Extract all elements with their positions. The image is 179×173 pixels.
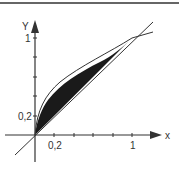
y-axis-label: Y	[22, 21, 29, 32]
shaded-region	[35, 38, 132, 135]
y-axis-arrow-icon	[31, 20, 39, 33]
x-axis-arrow-icon	[150, 131, 162, 139]
x-tick-label-1: 1	[130, 140, 136, 151]
curve-sqrt-x	[35, 32, 153, 135]
y-tick-label-1: 1	[25, 33, 31, 44]
x-tick-label-0.2: 0,2	[48, 140, 62, 151]
x-axis-label: x	[165, 130, 170, 141]
y-tick-label-0.2: 0,2	[18, 111, 32, 122]
area-between-curves-diagram: Y x 0,2 1 0,2 1	[0, 0, 179, 173]
